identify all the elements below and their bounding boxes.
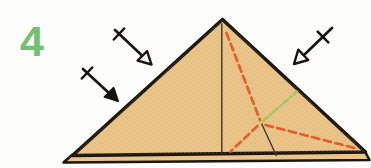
fold-arrow-open-right-icon xyxy=(294,28,332,64)
origami-step-panel: 4 xyxy=(0,0,371,168)
fold-arrow-open-top-left-icon xyxy=(114,29,152,65)
origami-diagram xyxy=(0,0,371,168)
fold-arrow-filled-left-icon xyxy=(82,68,118,102)
